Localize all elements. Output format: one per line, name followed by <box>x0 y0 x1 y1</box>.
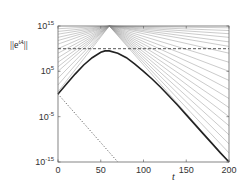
x-tick-label: 50 <box>96 165 106 175</box>
fan-line-left <box>58 26 109 67</box>
chart: 050100150200 101510510-510-15 t ||etA|| <box>0 0 244 189</box>
x-tick-label: 200 <box>221 165 236 175</box>
y-tick-label: 10-15 <box>35 156 54 167</box>
dotted-bound-line <box>58 94 118 162</box>
x-axis-title: t <box>172 171 175 182</box>
pseudospectral-fan-lines <box>58 26 229 162</box>
fan-line-right <box>109 26 229 62</box>
fan-line-right <box>109 26 229 153</box>
x-tick-label: 0 <box>55 165 60 175</box>
y-axis-title: ||etA|| <box>10 39 28 50</box>
y-tick-label: 10-5 <box>39 111 55 122</box>
y-tick-label: 105 <box>41 65 55 76</box>
fan-line-right <box>109 26 229 144</box>
norm-curve <box>58 51 229 162</box>
fan-line-right <box>109 26 229 46</box>
x-tick-label: 100 <box>136 165 151 175</box>
fan-line-right <box>109 26 229 99</box>
fan-line-right <box>109 26 229 135</box>
y-tick-label: 1015 <box>37 20 54 31</box>
data-series <box>58 49 229 162</box>
fan-line-left <box>58 26 109 49</box>
x-tick-label: 150 <box>179 165 194 175</box>
fan-line-right <box>109 26 229 126</box>
